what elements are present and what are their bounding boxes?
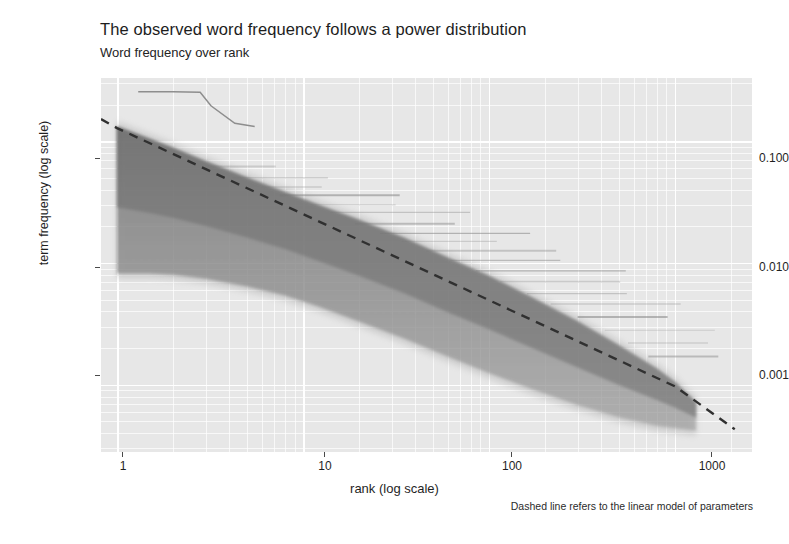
data-layer xyxy=(101,78,752,452)
x-tick-label-3: 1000 xyxy=(699,459,726,473)
x-tick-mark-1 xyxy=(324,452,325,457)
x-tick-label-2: 100 xyxy=(502,459,522,473)
x-tick-label-0: 1 xyxy=(120,459,127,473)
x-axis-label: rank (log scale) xyxy=(0,481,789,496)
chart-subtitle: Word frequency over rank xyxy=(100,45,249,60)
x-tick-mark-2 xyxy=(511,452,512,457)
outlier-trace xyxy=(138,92,254,127)
x-tick-mark-3 xyxy=(711,452,712,457)
y-tick-mark-2 xyxy=(95,375,100,376)
chart-title: The observed word frequency follows a po… xyxy=(100,20,527,39)
x-tick-label-1: 10 xyxy=(318,459,331,473)
x-tick-mark-0 xyxy=(122,452,123,457)
chart-caption: Dashed line refers to the linear model o… xyxy=(511,500,753,512)
y-tick-mark-0 xyxy=(95,158,100,159)
chart-root: The observed word frequency follows a po… xyxy=(0,0,789,544)
y-tick-mark-1 xyxy=(95,267,100,268)
plot-panel xyxy=(101,78,752,452)
y-axis-label: term frequency (log scale) xyxy=(37,121,51,266)
